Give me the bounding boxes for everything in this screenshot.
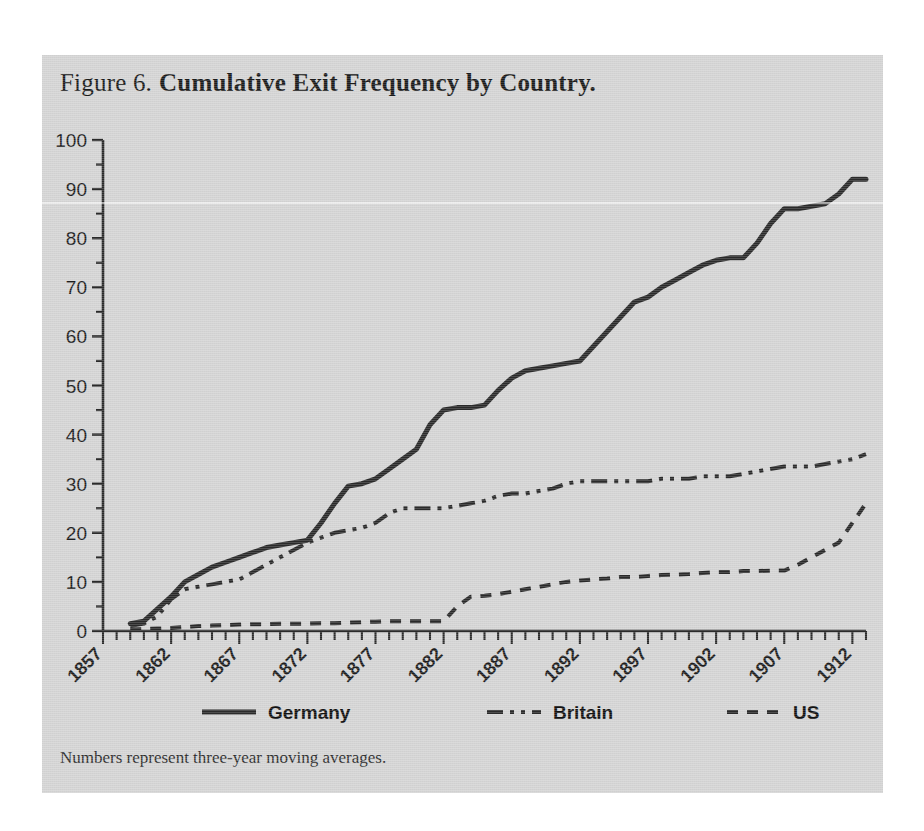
x-tick-label: 1882 xyxy=(404,644,446,686)
y-tick-label: 100 xyxy=(55,130,87,151)
y-tick-label: 10 xyxy=(66,572,87,593)
x-axis: 1857186218671872187718821887189218971902… xyxy=(63,631,866,686)
x-tick-label: 1897 xyxy=(608,644,650,686)
figure-panel: Figure 6.Cumulative Exit Frequency by Co… xyxy=(42,55,883,793)
x-tick-label: 1912 xyxy=(813,644,855,686)
y-tick-label: 70 xyxy=(66,277,87,298)
figure-note: Numbers represent three-year moving aver… xyxy=(60,748,386,768)
legend-label-germany: Germany xyxy=(268,702,351,723)
cumulative-exit-frequency-chart: 0102030405060708090100 18571862186718721… xyxy=(42,55,883,793)
series-line-germany xyxy=(130,179,866,623)
y-tick-label: 80 xyxy=(66,228,87,249)
chart-series-group xyxy=(130,179,866,629)
chart-legend: GermanyBritainUS xyxy=(202,702,819,723)
y-tick-label: 40 xyxy=(66,425,87,446)
x-tick-label: 1867 xyxy=(200,644,242,686)
x-tick-label: 1907 xyxy=(745,644,787,686)
y-tick-label: 30 xyxy=(66,474,87,495)
y-tick-label: 20 xyxy=(66,523,87,544)
x-tick-label: 1902 xyxy=(676,644,718,686)
y-tick-label: 60 xyxy=(66,326,87,347)
x-tick-label: 1892 xyxy=(540,644,582,686)
legend-label-britain: Britain xyxy=(553,702,613,723)
chart-plot-area: 0102030405060708090100 18571862186718721… xyxy=(42,55,883,793)
y-axis: 0102030405060708090100 xyxy=(55,130,103,642)
x-tick-label: 1877 xyxy=(336,644,378,686)
series-line-britain xyxy=(130,454,866,626)
x-tick-label: 1872 xyxy=(268,644,310,686)
x-tick-label: 1887 xyxy=(472,644,514,686)
x-tick-label: 1857 xyxy=(63,644,105,686)
x-tick-label: 1862 xyxy=(131,644,173,686)
series-line-us xyxy=(130,503,866,629)
y-tick-label: 0 xyxy=(76,621,87,642)
y-tick-label: 90 xyxy=(66,179,87,200)
y-tick-label: 50 xyxy=(66,376,87,397)
legend-label-us: US xyxy=(793,702,819,723)
